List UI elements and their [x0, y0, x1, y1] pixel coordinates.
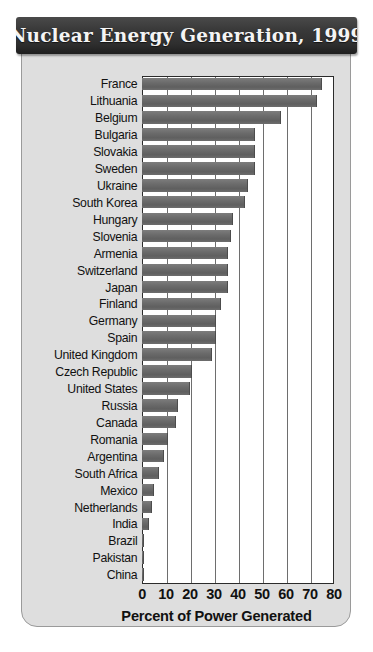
category-label: South Korea — [42, 196, 142, 210]
bar-row: France — [34, 76, 339, 93]
category-label: Finland — [42, 297, 142, 311]
bar-row: Russia — [34, 398, 339, 415]
bar-track — [142, 431, 334, 448]
bar-track — [142, 144, 334, 161]
bar-row: Spain — [34, 330, 339, 347]
x-tick-label: 10 — [158, 586, 173, 602]
bar-track — [142, 93, 334, 110]
category-label: China — [42, 568, 142, 582]
bar — [142, 247, 228, 259]
bar-row: Bulgaria — [34, 127, 339, 144]
category-label: Argentina — [42, 450, 142, 464]
bar-row: Lithuania — [34, 93, 339, 110]
category-label: United Kingdom — [42, 348, 142, 362]
bar — [142, 331, 216, 343]
category-label: Slovenia — [42, 230, 142, 244]
bar-row: Sweden — [34, 161, 339, 178]
x-tick-label: 30 — [206, 586, 221, 602]
bar-track — [142, 330, 334, 347]
page-title: Nuclear Energy Generation, 1999 — [16, 25, 357, 46]
bar — [142, 399, 178, 411]
bar-track — [142, 499, 334, 516]
bar — [142, 518, 149, 530]
bar-row: Ukraine — [34, 178, 339, 195]
category-label: Canada — [42, 416, 142, 430]
bar-row: Switzerland — [34, 262, 339, 279]
x-axis-ticks: 01020304050607080 — [142, 586, 334, 606]
bar-row: Armenia — [34, 245, 339, 262]
bar-row: Finland — [34, 296, 339, 313]
category-label: Lithuania — [42, 94, 142, 108]
x-tick-label: 80 — [326, 586, 341, 602]
bar-track — [142, 414, 334, 431]
bar-track — [142, 296, 334, 313]
bar — [142, 467, 159, 479]
bar — [142, 365, 192, 377]
chart-figure: Nuclear Energy Generation, 1999 FranceLi… — [0, 0, 373, 652]
bar-track — [142, 313, 334, 330]
bar-row: Czech Republic — [34, 364, 339, 381]
chart-plot-area: FranceLithuaniaBelgiumBulgariaSlovakiaSw… — [34, 64, 339, 624]
bar-row: Canada — [34, 414, 339, 431]
bar-track — [142, 245, 334, 262]
category-label: Sweden — [42, 162, 142, 176]
bar-row: United States — [34, 381, 339, 398]
bar-track — [142, 161, 334, 178]
bar — [142, 551, 144, 563]
bar-track — [142, 228, 334, 245]
bar-track — [142, 127, 334, 144]
bar — [142, 501, 152, 513]
bar-track — [142, 347, 334, 364]
bar-track — [142, 279, 334, 296]
bar-track — [142, 567, 334, 584]
bar-row: China — [34, 567, 339, 584]
bar-track — [142, 448, 334, 465]
bar-track — [142, 465, 334, 482]
bar-row: Pakistan — [34, 550, 339, 567]
x-tick-label: 20 — [182, 586, 197, 602]
category-label: Germany — [42, 314, 142, 328]
category-label: Hungary — [42, 213, 142, 227]
bar-track — [142, 516, 334, 533]
x-axis-label: Percent of Power Generated — [94, 608, 339, 624]
bar — [142, 484, 154, 496]
bar — [142, 78, 322, 90]
bar-row: India — [34, 516, 339, 533]
bar-track — [142, 211, 334, 228]
bar-row: Netherlands — [34, 499, 339, 516]
title-banner: Nuclear Energy Generation, 1999 — [16, 17, 357, 54]
bar-row: Hungary — [34, 211, 339, 228]
x-tick-label: 60 — [278, 586, 293, 602]
category-label: Switzerland — [42, 264, 142, 278]
category-label: South Africa — [42, 467, 142, 481]
x-tick-label: 70 — [302, 586, 317, 602]
bar — [142, 95, 317, 107]
bar — [142, 111, 281, 123]
bar — [142, 213, 233, 225]
bar-row: Brazil — [34, 533, 339, 550]
bar — [142, 230, 231, 242]
category-label: Pakistan — [42, 551, 142, 565]
category-label: Brazil — [42, 534, 142, 548]
bar — [142, 281, 228, 293]
x-tick-label: 0 — [138, 586, 146, 602]
category-label: Bulgaria — [42, 128, 142, 142]
category-label: Slovakia — [42, 145, 142, 159]
category-label: United States — [42, 382, 142, 396]
bar — [142, 179, 248, 191]
category-label: Russia — [42, 399, 142, 413]
bar-row: Belgium — [34, 110, 339, 127]
bar — [142, 264, 228, 276]
category-label: India — [42, 517, 142, 531]
category-label: Japan — [42, 281, 142, 295]
bar-rows: FranceLithuaniaBelgiumBulgariaSlovakiaSw… — [34, 76, 339, 584]
bar-track — [142, 178, 334, 195]
bar — [142, 348, 212, 360]
bar-row: Japan — [34, 279, 339, 296]
bar — [142, 145, 255, 157]
bar — [142, 534, 144, 546]
bar-track — [142, 533, 334, 550]
category-label: Romania — [42, 433, 142, 447]
bar-track — [142, 398, 334, 415]
x-tick-label: 40 — [230, 586, 245, 602]
